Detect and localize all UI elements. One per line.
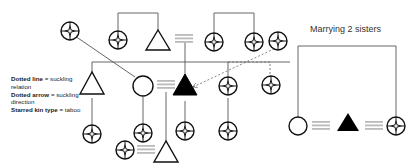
legend-item-starred: Starred kin type = taboo bbox=[11, 106, 91, 114]
ego-filled-triangle-icon bbox=[173, 74, 197, 95]
starred-kin-icon bbox=[245, 33, 263, 51]
starred-kin-icon bbox=[219, 77, 237, 95]
starred-kin-icon bbox=[219, 122, 237, 140]
female-circle-icon bbox=[289, 117, 307, 135]
female-circle-icon bbox=[133, 76, 153, 96]
legend: Dotted line = suckling relation Dotted a… bbox=[11, 75, 91, 114]
male-triangle-icon bbox=[154, 141, 178, 162]
ego-filled-triangle-icon bbox=[337, 113, 359, 131]
starred-kin-icon bbox=[116, 141, 134, 159]
starred-kin-icon bbox=[134, 124, 152, 142]
starred-kin-icon bbox=[83, 125, 101, 143]
marriage-icon bbox=[175, 34, 193, 43]
diagram-title: Marrying 2 sisters bbox=[310, 24, 381, 34]
marriage-icon bbox=[365, 121, 383, 130]
starred-kin-icon bbox=[262, 76, 280, 94]
starred-kin-icon bbox=[205, 33, 223, 51]
marriage-icon bbox=[137, 145, 155, 154]
male-triangle-icon bbox=[146, 30, 170, 50]
marriage-icon bbox=[157, 80, 175, 89]
marriage-icon bbox=[312, 121, 330, 130]
legend-item-dotted-arrow: Dotted arrow = suckling direction bbox=[11, 91, 91, 107]
starred-kin-icon bbox=[61, 22, 79, 40]
starred-kin-icon bbox=[387, 117, 405, 135]
legend-item-dotted-line: Dotted line = suckling relation bbox=[11, 75, 91, 91]
starred-kin-icon bbox=[176, 122, 194, 140]
starred-kin-icon bbox=[109, 31, 127, 49]
starred-kin-icon bbox=[269, 32, 287, 50]
